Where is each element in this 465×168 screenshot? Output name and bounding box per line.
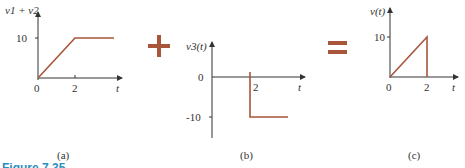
figure-canvas: v1 + v2 10 0 2 t (a) v3(t) 0 -10 2 t (b)… bbox=[0, 0, 465, 168]
xtick-2: 2 bbox=[72, 82, 78, 94]
x-label: t bbox=[116, 82, 120, 94]
xtick-0: 0 bbox=[34, 82, 40, 94]
ytick-neg10: -10 bbox=[186, 111, 201, 123]
signal-line bbox=[250, 72, 288, 117]
figure-caption: Figure 7.35 bbox=[2, 161, 66, 168]
panel-b: v3(t) 0 -10 2 t (b) bbox=[186, 40, 305, 162]
xtick-0: 0 bbox=[386, 81, 392, 93]
equals-operator bbox=[328, 41, 347, 54]
y-label: v3(t) bbox=[186, 40, 207, 53]
signal-line bbox=[38, 38, 114, 78]
x-label: t bbox=[452, 81, 456, 93]
panel-a: v1 + v2 10 0 2 t (a) bbox=[5, 4, 122, 162]
panel-label: (b) bbox=[240, 149, 253, 162]
ytick-0: 0 bbox=[198, 71, 204, 83]
ytick-10: 10 bbox=[16, 32, 28, 44]
y-label: v1 + v2 bbox=[5, 4, 39, 16]
plus-operator bbox=[148, 35, 170, 57]
panel-label: (c) bbox=[408, 149, 421, 162]
ytick-10: 10 bbox=[374, 31, 386, 43]
x-label: t bbox=[298, 81, 302, 93]
panel-c: v(t) 10 0 2 t (c) bbox=[370, 5, 458, 162]
signal-line bbox=[390, 37, 427, 77]
xtick-2: 2 bbox=[424, 81, 430, 93]
y-label: v(t) bbox=[370, 5, 386, 18]
xtick-2: 2 bbox=[253, 81, 259, 93]
